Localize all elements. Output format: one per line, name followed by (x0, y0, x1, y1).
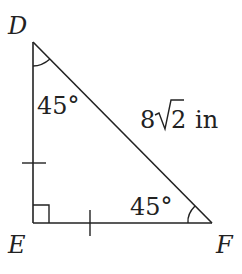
hypotenuse-unit: in (195, 106, 218, 134)
angle-arc-d (33, 59, 50, 66)
angle-label-f: 45° (130, 193, 173, 221)
right-angle-marker (33, 205, 49, 223)
vertex-label-d: D (7, 12, 27, 40)
hypotenuse-radicand: 2 (171, 106, 186, 134)
vertex-label-e: E (7, 231, 26, 259)
angle-arc-f (188, 206, 195, 223)
angle-label-d: 45° (37, 92, 80, 120)
triangle-diagram: D E F 45° 45° 8 2 in (0, 0, 242, 274)
vertex-label-f: F (215, 231, 234, 259)
hypotenuse-coefficient: 8 (140, 106, 155, 134)
hypotenuse-length-label: 8 2 in (140, 100, 218, 134)
